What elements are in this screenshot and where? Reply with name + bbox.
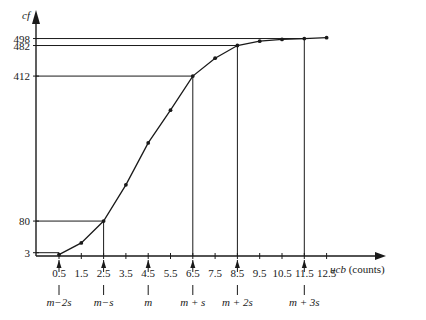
x-tick-label: 5.5 (164, 267, 178, 279)
data-point (79, 241, 83, 245)
data-point (258, 39, 262, 43)
y-tick-label: 412 (14, 70, 31, 82)
x-tick-label: 1.5 (74, 267, 88, 279)
x-tick-label: 7.5 (208, 267, 222, 279)
annotation-label: m (144, 296, 152, 308)
annotation-label: m + 3s (289, 296, 320, 308)
ogive-chart: cfucb (counts)0.51.52.53.54.55.56.57.58.… (0, 0, 426, 320)
data-point (280, 38, 284, 42)
annotation-label: m−2s (46, 296, 71, 308)
data-point (146, 141, 150, 145)
x-tick-label: 12.5 (317, 267, 337, 279)
data-point (302, 37, 306, 41)
data-point (57, 253, 61, 257)
annotation-label: m + s (180, 296, 205, 308)
y-tick-label: 80 (19, 215, 31, 227)
data-point (102, 219, 106, 223)
data-point (236, 44, 240, 48)
y-tick-label: 3 (25, 247, 31, 259)
x-axis-arrow-icon (375, 252, 386, 260)
data-point (325, 36, 329, 40)
annotation-label: m + 2s (222, 296, 253, 308)
data-point (191, 74, 195, 78)
y-axis-arrow-icon (32, 10, 40, 24)
x-tick-label: 9.5 (253, 267, 267, 279)
data-point (169, 108, 173, 112)
data-point (124, 183, 128, 187)
y-axis-label: cf (22, 9, 32, 21)
data-point (213, 56, 217, 60)
y-tick-label: 498 (14, 33, 31, 45)
annotation-label: m−s (94, 296, 114, 308)
x-tick-label: 10.5 (272, 267, 292, 279)
x-tick-label: 3.5 (119, 267, 133, 279)
x-axis-label: ucb (counts) (330, 263, 385, 276)
